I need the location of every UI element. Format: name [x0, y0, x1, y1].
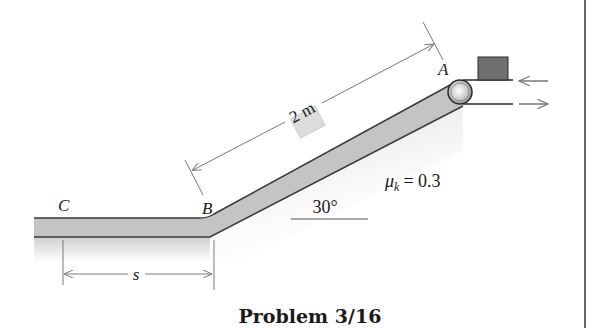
flat-distance-label: s	[133, 265, 140, 284]
point-label-a: A	[437, 60, 449, 79]
point-label-b: B	[202, 199, 213, 218]
roller-icon	[448, 80, 472, 104]
friction-coefficient: μk= 0.3	[384, 171, 441, 194]
problem-diagram: 2 m s 30° μk= 0.3 A B C Problem 3/16	[0, 0, 590, 328]
friction-value: = 0.3	[403, 171, 440, 191]
point-label-c: C	[58, 196, 70, 215]
block-on-conveyor	[478, 57, 508, 80]
conveyor-belt	[448, 80, 513, 104]
belt-direction-arrows	[519, 81, 548, 104]
problem-caption: Problem 3/16	[239, 305, 382, 327]
friction-subscript: k	[394, 180, 400, 194]
friction-symbol: μ	[384, 171, 394, 191]
angle-label: 30°	[312, 197, 337, 217]
